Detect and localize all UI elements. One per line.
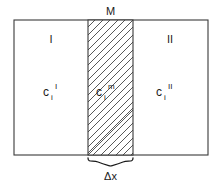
region-label-right: II [167, 33, 173, 45]
concentration-membrane-superscript: m [108, 82, 115, 91]
concentration-right-superscript: II [168, 82, 172, 91]
region-label-left: I [49, 33, 52, 45]
membrane-diagram: M I II c i I c i m c i II Δx [0, 0, 222, 186]
concentration-right-subscript: i [164, 93, 166, 102]
concentration-right-base: c [156, 85, 162, 99]
concentration-left-subscript: i [51, 93, 53, 102]
concentration-left-base: c [43, 85, 49, 99]
concentration-membrane-subscript: i [104, 93, 106, 102]
thickness-label-delta-x: Δx [104, 170, 117, 182]
concentration-membrane-base: c [96, 85, 102, 99]
concentration-left-superscript: I [55, 82, 57, 91]
thickness-brace [88, 158, 133, 166]
membrane-label-M: M [106, 5, 115, 17]
